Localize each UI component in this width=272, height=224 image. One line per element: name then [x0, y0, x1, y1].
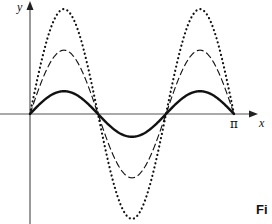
y-axis-label: y	[17, 1, 22, 13]
x-tick-label-pi: π	[230, 118, 238, 130]
x-axis-label: x	[259, 117, 264, 129]
figure-caption-fragment: Fi	[256, 203, 268, 216]
figure-plot	[0, 0, 272, 224]
x-axis-arrow-icon	[249, 111, 258, 118]
y-axis-arrow-icon	[27, 1, 34, 10]
